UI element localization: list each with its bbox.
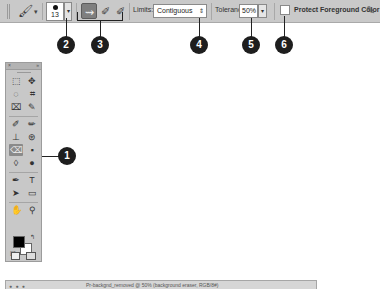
tool-row: ✋ ⚲: [6, 204, 41, 217]
tool-row: ⌫ ▪: [6, 144, 41, 157]
limits-value: Contiguous: [157, 7, 192, 14]
brush-tool[interactable]: ✏: [25, 118, 39, 130]
type-icon: T: [29, 175, 35, 185]
callout-3: 3: [91, 36, 109, 54]
callout-leader: [284, 16, 285, 37]
limits-label: Limits:: [133, 6, 153, 13]
limits-select[interactable]: Contiguous ⇕: [153, 4, 207, 18]
hand-icon: ✋: [11, 205, 22, 215]
tool-row: ✒ T: [6, 174, 41, 187]
document-window-titlebar[interactable]: ● ● ● Pr-backgnd_removed @ 50% (backgrou…: [5, 280, 317, 289]
pen-tool[interactable]: ✒: [9, 174, 23, 186]
divider: [274, 3, 275, 20]
type-tool[interactable]: T: [25, 174, 39, 186]
crop-tool[interactable]: ⌧: [9, 101, 23, 113]
callout-5: 5: [242, 36, 260, 54]
tool-preset-picker[interactable]: 🖌 ▾: [18, 4, 40, 19]
pen-icon: ✒: [12, 175, 20, 185]
dodge-tool[interactable]: ●: [25, 157, 39, 169]
gradient-icon: ▪: [30, 145, 33, 155]
zoom-tool[interactable]: ⚲: [25, 204, 39, 216]
updown-arrows-icon: ⇕: [199, 5, 204, 17]
background-eraser-tool[interactable]: ⌫: [9, 144, 23, 156]
blur-tool[interactable]: ◊: [9, 157, 23, 169]
tool-row: ➤ ▭: [6, 187, 41, 200]
tolerance-slider-button[interactable]: ▾: [258, 4, 267, 18]
history-brush-tool[interactable]: ⊛: [25, 131, 39, 143]
healing-brush-tool[interactable]: ✐: [9, 118, 23, 130]
magnifier-icon: ⚲: [29, 205, 36, 215]
brush-size: 13: [47, 11, 63, 18]
background-eraser-icon: 🖌: [18, 4, 33, 18]
lasso-tool[interactable]: ◌: [9, 88, 23, 100]
divider: [129, 3, 130, 20]
divider: [42, 3, 43, 20]
quick-selection-icon: ⌗: [30, 89, 35, 99]
eyedropper-tool[interactable]: ✎: [25, 101, 39, 113]
crop-icon: ⌧: [11, 102, 21, 112]
tools-panel: × » ⬚ ✥ ◌ ⌗ ⌧ ✎ ✐ ✏ ⊥ ⊛ ⌫ ▪ ◊: [5, 62, 42, 262]
tool-row: ◊ ●: [6, 157, 41, 170]
tool-row: ⬚ ✥: [6, 75, 41, 88]
tool-row: ⌧ ✎: [6, 101, 41, 114]
callout-6: 6: [275, 36, 293, 54]
tool-row: ✐ ✏: [6, 118, 41, 131]
callout-2: 2: [57, 36, 75, 54]
hand-tool[interactable]: ✋: [9, 204, 23, 216]
eyedropper-icon: ✎: [28, 102, 36, 112]
screenshot-stage: 🖌 ▾ 13 ▾ ⇝ ✐ ✐ Limits: Contiguous ⇕ Tole…: [0, 0, 380, 289]
history-brush-icon: ⊛: [28, 132, 36, 142]
path-selection-tool[interactable]: ➤: [9, 187, 23, 199]
dodge-icon: ●: [29, 158, 34, 168]
screen-mode-button[interactable]: [26, 252, 36, 260]
window-controls[interactable]: ● ● ●: [9, 283, 26, 289]
background-eraser-icon: ⌫: [10, 145, 23, 155]
move-tool[interactable]: ✥: [25, 75, 39, 87]
tablet-pressure-icon[interactable]: ✎: [366, 4, 375, 17]
lasso-icon: ◌: [13, 89, 18, 99]
tolerance-input[interactable]: 50%: [239, 4, 258, 18]
chevron-down-icon: ▾: [34, 4, 38, 19]
options-bar: 🖌 ▾ 13 ▾ ⇝ ✐ ✐ Limits: Contiguous ⇕ Tole…: [0, 0, 380, 23]
rectangle-icon: ▭: [28, 188, 37, 198]
tool-row: ⊥ ⊛: [6, 131, 41, 144]
foreground-color-swatch[interactable]: [13, 236, 25, 248]
callout-4: 4: [190, 36, 208, 54]
clone-stamp-icon: ⊥: [12, 132, 20, 142]
callout-leader: [66, 18, 67, 37]
tools-panel-titlebar[interactable]: × »: [6, 63, 41, 70]
blur-icon: ◊: [14, 158, 18, 168]
callout-leader: [199, 18, 200, 37]
callout-leader: [100, 21, 101, 37]
document-title: Pr-backgnd_removed @ 50% (background era…: [86, 282, 218, 288]
tool-row: ◌ ⌗: [6, 88, 41, 101]
brush-picker[interactable]: 13: [46, 2, 64, 21]
shape-tool[interactable]: ▭: [25, 187, 39, 199]
divider: [211, 3, 212, 20]
swap-colors-icon[interactable]: ↰: [30, 233, 35, 240]
marquee-icon: ⬚: [12, 76, 21, 86]
move-icon: ✥: [28, 76, 36, 86]
close-icon[interactable]: ×: [8, 62, 11, 68]
quick-mask-button[interactable]: [11, 252, 20, 260]
protect-foreground-checkbox[interactable]: [280, 5, 290, 15]
callout-bracket: [77, 12, 123, 21]
quick-selection-tool[interactable]: ⌗: [25, 88, 39, 100]
options-bar-grip[interactable]: [7, 4, 10, 19]
healing-brush-icon: ✐: [12, 119, 20, 129]
collapse-icon[interactable]: »: [36, 62, 39, 68]
callout-1: 1: [58, 147, 76, 165]
marquee-tool[interactable]: ⬚: [9, 75, 23, 87]
brush-icon: ✏: [28, 119, 36, 129]
arrow-icon: ➤: [12, 188, 20, 198]
brush-tip-icon: [53, 5, 58, 10]
gradient-tool[interactable]: ▪: [25, 144, 39, 156]
clone-stamp-tool[interactable]: ⊥: [9, 131, 23, 143]
callout-leader: [251, 18, 252, 37]
